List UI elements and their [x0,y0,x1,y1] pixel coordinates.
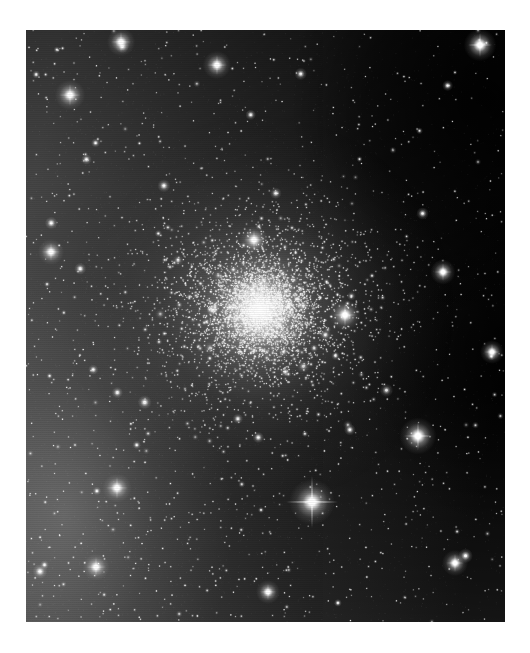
astronomy-photograph [26,30,505,622]
page-root [0,0,530,653]
globular-cluster-layer [26,30,505,622]
